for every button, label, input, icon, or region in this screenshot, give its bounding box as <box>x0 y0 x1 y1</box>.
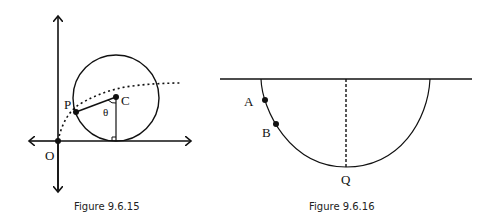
label-c: C <box>121 93 130 108</box>
figure-9-6-16: A B Q Figure 9.6.16 <box>220 79 472 212</box>
label-b: B <box>262 125 271 140</box>
caption-9-6-16: Figure 9.6.16 <box>309 201 375 212</box>
point-a <box>262 97 268 103</box>
point-b <box>273 121 279 127</box>
point-c <box>113 94 119 100</box>
label-theta: θ <box>103 106 108 118</box>
point-o <box>55 138 61 144</box>
angle-arc <box>108 100 116 103</box>
semi-ellipse-arc <box>261 79 430 167</box>
figure-9-6-15: O P C θ Figure 9.6.15 <box>29 16 191 212</box>
point-p <box>73 109 79 115</box>
caption-9-6-15: Figure 9.6.15 <box>74 201 140 212</box>
label-q: Q <box>341 172 351 187</box>
label-o: O <box>45 148 54 163</box>
radius-cp <box>76 97 116 112</box>
label-a: A <box>244 94 254 109</box>
label-p: P <box>64 97 71 112</box>
diagram-canvas: O P C θ Figure 9.6.15 A B Q Figure 9.6.1… <box>0 0 490 218</box>
